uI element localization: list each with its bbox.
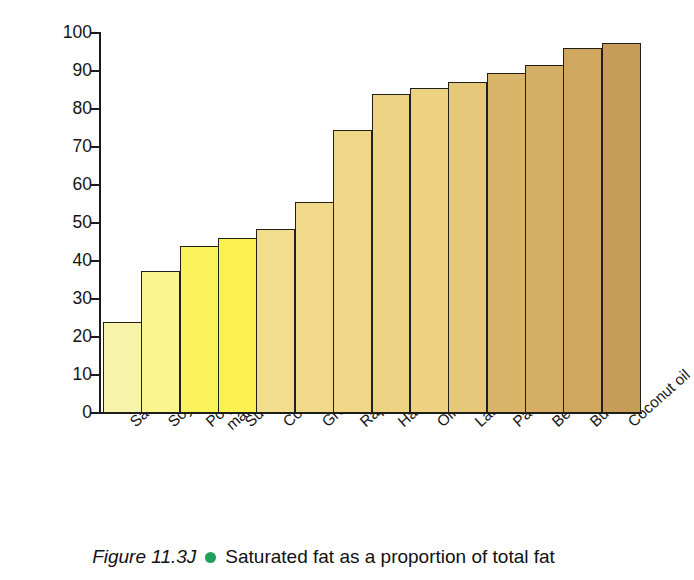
y-tick-mark-0 [91, 412, 100, 414]
bar-groundnut-oil [295, 202, 334, 413]
x-axis-category-labels: Safflower oilSoyabean oilPolyunsaturated… [0, 413, 647, 525]
y-tick-mark-90 [91, 70, 100, 72]
bar-corn-oil [256, 229, 295, 413]
y-tick-mark-70 [91, 146, 100, 148]
bar-safflower-oil [103, 322, 142, 413]
bar-rapeseed-oil [333, 130, 372, 413]
caption-description: Saturated fat as a proportion of total f… [225, 546, 555, 568]
bar-beef-fat [525, 65, 564, 413]
y-tick-label-40: 40 [40, 250, 92, 271]
y-tick-label-90: 90 [40, 60, 92, 81]
y-axis-tick-labels: 0102030405060708090100 [40, 32, 92, 413]
y-tick-label-10: 10 [40, 364, 92, 385]
y-tick-label-60: 60 [40, 174, 92, 195]
y-tick-label-80: 80 [40, 98, 92, 119]
bar-butter [563, 48, 602, 413]
bar-olive-oil [410, 88, 449, 413]
y-tick-mark-60 [91, 184, 100, 186]
bar-lard [448, 82, 487, 413]
bar-soyabean-oil [141, 271, 180, 414]
y-tick-label-20: 20 [40, 326, 92, 347]
y-tick-label-50: 50 [40, 212, 92, 233]
bar-hard-margarine [372, 94, 411, 413]
y-tick-mark-10 [91, 374, 100, 376]
y-tick-label-70: 70 [40, 136, 92, 157]
bar-coconut-oil [602, 43, 641, 414]
y-tick-mark-80 [91, 108, 100, 110]
bar-palm-oil [487, 73, 526, 413]
caption-figure-number: Figure 11.3J [92, 546, 196, 568]
plot-area [103, 32, 640, 413]
y-tick-mark-40 [91, 260, 100, 262]
y-tick-label-30: 30 [40, 288, 92, 309]
y-tick-mark-100 [91, 32, 100, 34]
y-tick-label-100: 100 [40, 22, 92, 43]
bar-polyunsaturated-margarine [180, 246, 219, 413]
y-tick-mark-30 [91, 298, 100, 300]
bar-sunflower-oil [218, 238, 257, 413]
y-tick-mark-50 [91, 222, 100, 224]
y-tick-mark-20 [91, 336, 100, 338]
figure-caption: Figure 11.3J Saturated fat as a proporti… [0, 540, 647, 574]
caption-bullet-icon [205, 552, 216, 563]
